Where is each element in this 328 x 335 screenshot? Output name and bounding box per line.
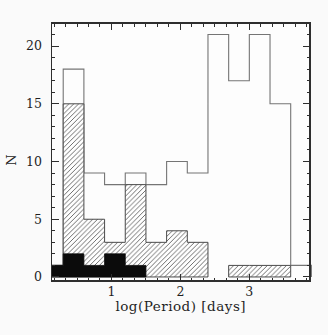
plot-area: 12305101520 [26, 23, 311, 299]
y-tick-label-0: 0 [34, 269, 42, 284]
y-tick-label-20: 20 [26, 38, 42, 53]
x-tick-label-1: 1 [107, 284, 115, 299]
period-histogram-figure: 12305101520 log(Period) [days] N [0, 0, 328, 335]
x-tick-label-3: 3 [245, 284, 253, 299]
y-tick-label-10: 10 [26, 154, 42, 169]
y-axis-label: N [4, 154, 19, 165]
y-tick-label-15: 15 [26, 96, 42, 111]
x-tick-label-2: 2 [176, 284, 184, 299]
y-tick-label-5: 5 [34, 212, 42, 227]
x-axis-label: log(Period) [days] [115, 298, 246, 314]
chart-canvas: 12305101520 log(Period) [days] N [0, 0, 328, 335]
